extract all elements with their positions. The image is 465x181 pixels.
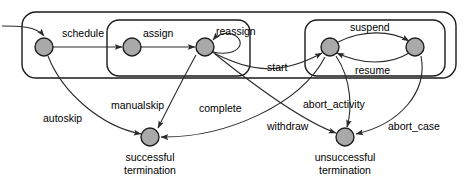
edge-label-complete: complete [199, 102, 242, 114]
edge-label-reassign: reassign [216, 25, 256, 37]
transition-initial [2, 26, 44, 36]
state-node-suspended[interactable] [406, 38, 424, 56]
state-node-assigned[interactable] [123, 38, 141, 56]
edge-label-schedule: schedule [62, 27, 104, 39]
state-diagram: schedule assign reassign start suspend r… [0, 0, 465, 181]
edge-label-withdraw: withdraw [266, 120, 309, 132]
edge-label-abort-activity: abort_activity [303, 98, 366, 110]
node-label-unsuccessful-termination-line2: termination [319, 164, 371, 176]
transition-manualskip [158, 55, 196, 128]
state-node-reassigned[interactable] [196, 38, 214, 56]
state-node-successful-termination[interactable] [141, 128, 159, 146]
node-label-successful-termination-line1: successful [125, 151, 174, 163]
edge-label-suspend: suspend [350, 21, 390, 33]
edge-label-start: start [267, 61, 288, 73]
outer-group [22, 12, 456, 78]
node-label-unsuccessful-termination-line1: unsuccessful [315, 151, 376, 163]
edge-label-manualskip: manualskip [111, 99, 164, 111]
node-label-group: successful termination unsuccessful term… [124, 151, 375, 176]
transition-resume [337, 53, 409, 62]
node-label-successful-termination-line2: termination [124, 164, 176, 176]
node-group [35, 38, 424, 146]
state-node-started[interactable] [321, 38, 339, 56]
state-node-unsuccessful-termination[interactable] [336, 128, 354, 146]
transition-suspend [338, 33, 409, 42]
state-node-scheduled[interactable] [35, 38, 53, 56]
edge-label-abort-case: abort_case [388, 120, 440, 132]
diagram-canvas: schedule assign reassign start suspend r… [0, 0, 465, 181]
transition-abort-activity [336, 56, 350, 127]
container-group [22, 12, 456, 78]
edge-label-autoskip: autoskip [43, 112, 82, 124]
edge-label-assign: assign [143, 27, 174, 39]
edge-label-resume: resume [355, 64, 390, 76]
